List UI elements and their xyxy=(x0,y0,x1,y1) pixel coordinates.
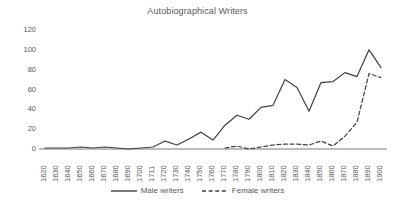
x-tick-label: 1820 xyxy=(280,165,288,182)
legend-item-male-writers: Male writers xyxy=(111,186,184,195)
legend-label-male-writers: Male writers xyxy=(141,186,184,195)
x-tick-label: 1800 xyxy=(256,165,264,182)
y-tick-label: 20 xyxy=(28,125,36,133)
x-tick-label: 1640 xyxy=(64,165,72,182)
x-axis: 1620163016401650166016701680169017001711… xyxy=(39,152,387,182)
x-tick-label: 1810 xyxy=(268,165,276,182)
x-tick-label: 1740 xyxy=(184,165,192,182)
x-tick-label: 1720 xyxy=(160,165,168,182)
x-tick-label: 1660 xyxy=(88,165,96,182)
y-tick-label: 0 xyxy=(32,145,36,153)
legend-label-female-writers: Female writers xyxy=(232,186,284,195)
solid-line-icon xyxy=(111,187,137,195)
x-tick-label: 1680 xyxy=(112,165,120,182)
plot-svg xyxy=(39,22,387,154)
x-tick-label: 1850 xyxy=(316,165,324,182)
x-tick-label: 1630 xyxy=(52,165,60,182)
x-tick-label: 1730 xyxy=(172,165,180,182)
y-tick-label: 100 xyxy=(23,46,36,54)
x-tick-label: 1890 xyxy=(364,165,372,182)
x-tick-label: 1750 xyxy=(196,165,204,182)
x-tick-label: 1670 xyxy=(100,165,108,182)
x-tick-label: 1830 xyxy=(292,165,300,182)
x-tick-label: 1711 xyxy=(148,166,156,182)
x-tick-label: 1700 xyxy=(136,165,144,182)
chart-title: Autobiographical Writers xyxy=(0,6,395,16)
x-tick-label: 1760 xyxy=(208,165,216,182)
y-tick-label: 80 xyxy=(28,66,36,74)
x-tick-label: 1650 xyxy=(76,165,84,182)
x-tick-label: 1790 xyxy=(244,165,252,182)
x-tick-label: 1900 xyxy=(376,165,384,182)
x-tick-label: 1690 xyxy=(124,165,132,182)
x-tick-label: 1860 xyxy=(328,165,336,182)
x-tick-label: 1840 xyxy=(304,165,312,182)
y-axis: 020406080100120 xyxy=(10,22,36,154)
chart-container: Autobiographical Writers 020406080100120… xyxy=(0,0,395,206)
y-tick-label: 120 xyxy=(23,26,36,34)
x-tick-label: 1770 xyxy=(220,165,228,182)
x-tick-label: 1620 xyxy=(40,165,48,182)
legend-item-female-writers: Female writers xyxy=(202,186,284,195)
dashed-line-icon xyxy=(202,187,228,195)
chart-legend: Male writers Female writers xyxy=(0,186,395,195)
x-tick-label: 1870 xyxy=(340,165,348,182)
series-male-writers-line xyxy=(45,50,381,149)
series-female-writers-line xyxy=(225,74,381,149)
plot-area xyxy=(39,22,387,154)
x-tick-label: 1780 xyxy=(232,165,240,182)
y-tick-label: 40 xyxy=(28,105,36,113)
x-tick-label: 1880 xyxy=(352,165,360,182)
y-tick-label: 60 xyxy=(28,86,36,94)
